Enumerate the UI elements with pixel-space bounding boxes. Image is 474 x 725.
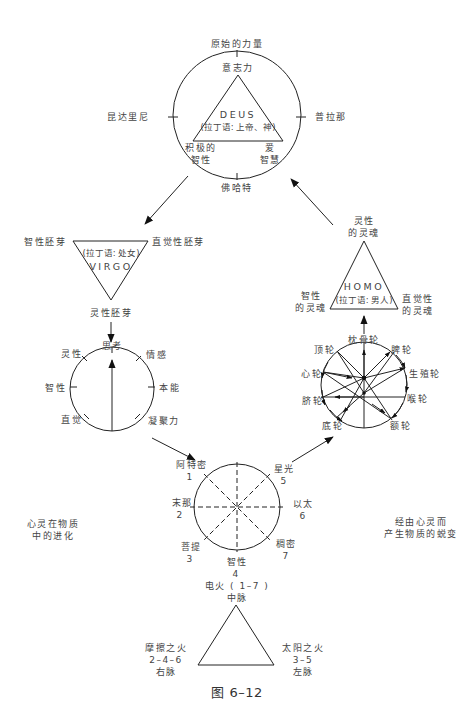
- label-sushumna: 中脉: [227, 592, 248, 604]
- label-intuition-soul-2: 的灵魂: [402, 305, 434, 317]
- label-astral: 星光: [274, 463, 295, 475]
- label-spirit-soul-1: 灵性: [354, 215, 375, 227]
- label-intuition: 直觉: [61, 414, 82, 426]
- label-virgo: VIRGO: [89, 261, 132, 273]
- arrow-to-chakras: [292, 437, 333, 462]
- label-intellect-soul-1: 智性: [301, 290, 322, 302]
- label-primordial-force: 原始的力量: [211, 38, 264, 50]
- label-thought: 思考: [102, 340, 123, 352]
- label-etheric: 以太: [293, 498, 314, 510]
- thought-circle: [70, 347, 155, 431]
- label-atma: 阿特密: [176, 459, 208, 471]
- label-solar-fire: 太阳之火: [282, 642, 324, 654]
- label-fohat: 佛哈特: [221, 182, 253, 194]
- label-friction-fire: 摩擦之火: [145, 642, 187, 654]
- label-spirit-soul-2: 的灵魂: [348, 227, 380, 239]
- note-left-2: 中的进化: [32, 530, 74, 542]
- label-spirit-germ: 灵性胚芽: [90, 307, 132, 319]
- label-instinct: 本能: [159, 382, 180, 394]
- label-friction-rays: 2–4–6: [149, 654, 183, 666]
- note-right-2: 产生物质的蜕变: [384, 528, 458, 540]
- label-left-channel: 左脉: [293, 666, 314, 678]
- label-intellect-germ: 智性胚芽: [24, 236, 66, 248]
- label-navel-chakra: 脐轮: [302, 395, 323, 407]
- label-prana: 普拉那: [315, 111, 347, 123]
- label-sacral-chakra: 生殖轮: [409, 368, 441, 380]
- label-ray-6: 6: [299, 510, 306, 522]
- label-intuition-soul-1: 直觉性: [402, 293, 434, 305]
- label-crown-chakra: 顶轮: [314, 344, 335, 356]
- label-homo-latin: (拉丁语: 男人): [335, 294, 392, 306]
- label-love: 爱: [265, 142, 276, 154]
- label-throat-chakra: 喉轮: [407, 393, 428, 405]
- chakra-center-upper: [362, 376, 366, 380]
- label-emotion: 情感: [146, 349, 167, 361]
- rays-circle: [190, 462, 284, 552]
- label-manas: 末那: [172, 497, 193, 509]
- note-right-1: 经由心灵而: [395, 516, 448, 528]
- label-heart-chakra: 心轮: [301, 368, 322, 380]
- label-wisdom: 智慧: [260, 154, 281, 166]
- label-intellect: 智性: [45, 382, 66, 394]
- label-ray-3: 3: [186, 553, 193, 565]
- arrow-to-virgo: [145, 176, 188, 224]
- label-ray-1: 1: [186, 471, 193, 483]
- label-intelligence: 智性: [191, 154, 212, 166]
- label-buddhi: 菩提: [181, 541, 202, 553]
- label-active: 积极的: [185, 142, 217, 154]
- note-left-1: 心灵在物质: [27, 518, 80, 530]
- label-intellect-soul-2: 的灵魂: [295, 302, 327, 314]
- label-spleen-chakra: 脾轮: [391, 344, 412, 356]
- label-homo: HOMO: [344, 281, 384, 293]
- label-virgo-latin: (拉丁语: 处女): [82, 247, 139, 259]
- label-kundalini: 昆达里尼: [107, 111, 149, 123]
- label-will: 意志力: [222, 62, 254, 74]
- label-electric-fire: 电火 ( 1–7 ): [205, 580, 270, 592]
- label-brow-chakra: 额轮: [390, 420, 411, 432]
- label-base-chakra: 底轮: [322, 420, 343, 432]
- fire-triangle: [198, 605, 274, 665]
- label-deus-latin: (拉丁语: 上帝、神): [200, 121, 275, 133]
- label-occipital-chakra: 枕骨轮: [348, 334, 380, 346]
- label-spirituality: 灵性: [61, 348, 82, 360]
- label-solar-rays: 3–5: [293, 654, 313, 666]
- label-mental: 智性: [227, 556, 248, 568]
- label-ray-4: 4: [232, 568, 239, 580]
- figure-caption: 图 6–12: [211, 682, 262, 701]
- chakra-center-lower: [362, 391, 366, 395]
- label-ray-5: 5: [280, 475, 287, 487]
- label-cohesion: 凝聚力: [148, 415, 180, 427]
- label-deus: DEUS: [220, 109, 256, 121]
- arrow-to-rays: [152, 438, 195, 460]
- label-ray-7: 7: [282, 550, 289, 562]
- label-intuition-germ: 直觉性胚芽: [152, 236, 205, 248]
- arrow-to-deus: [291, 179, 333, 225]
- label-right-channel: 右脉: [156, 666, 177, 678]
- label-ray-2: 2: [176, 509, 183, 521]
- label-dense: 稠密: [276, 538, 297, 550]
